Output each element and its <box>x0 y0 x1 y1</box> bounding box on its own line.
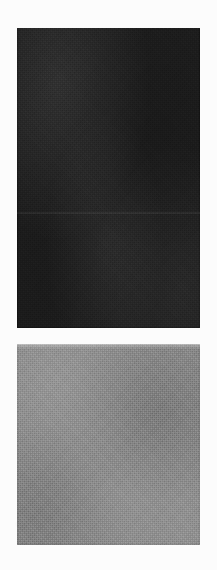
dark-patch-seam <box>17 212 200 214</box>
gray-tone-patch <box>17 344 200 545</box>
scanned-page <box>0 0 217 570</box>
dark-tone-patch <box>17 28 200 328</box>
gray-patch-top-sheen <box>17 344 200 349</box>
patch-gap <box>0 328 217 344</box>
